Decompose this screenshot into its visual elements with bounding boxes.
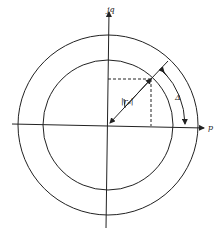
horizontal-axis <box>12 124 204 128</box>
p-axis-label: p <box>208 123 213 132</box>
rp-label: |rₚ| <box>121 97 133 106</box>
vertical-axis <box>106 12 109 228</box>
delta-label: Δ <box>174 93 181 102</box>
jq-axis-label: jq <box>105 5 115 14</box>
phasor-diagram: jq p |rₚ| Δ <box>0 0 224 236</box>
vector-extension <box>151 61 168 79</box>
